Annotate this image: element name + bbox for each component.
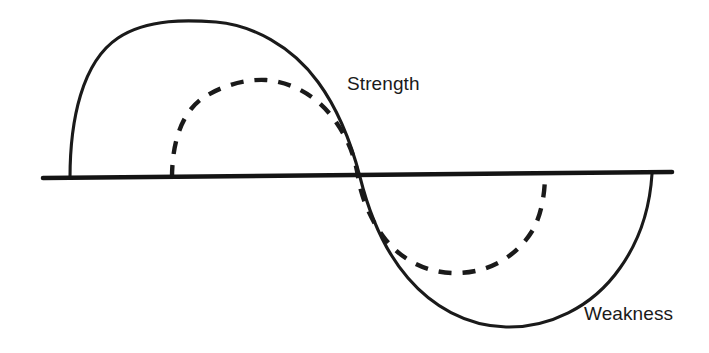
wave-diagram-canvas — [0, 0, 709, 353]
horizontal-baseline-axis — [43, 172, 672, 178]
weakness-label: Weakness — [584, 304, 673, 323]
strength-label: Strength — [347, 74, 420, 93]
wave-diagram-figure: Strength Weakness — [0, 0, 709, 353]
